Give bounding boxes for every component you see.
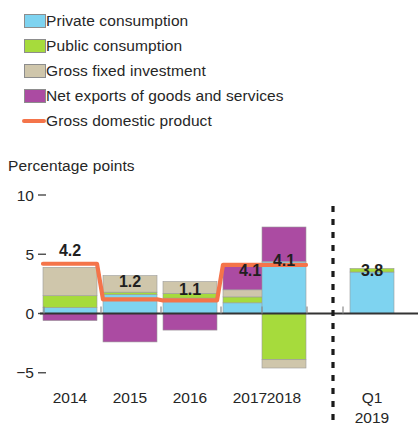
bar-segment: [43, 296, 97, 308]
bar-segment: [43, 314, 97, 321]
x-axis-label: 2017: [233, 389, 267, 406]
bar-value-label: 1.2: [119, 273, 141, 290]
y-tick-label: 5: [25, 246, 34, 263]
x-axis-label: 2018: [267, 389, 301, 406]
y-axis-ticks: 1050−5: [16, 187, 46, 382]
bar-value-label: 3.8: [361, 262, 383, 279]
x-axis-label: Q1: [362, 389, 383, 406]
bar-segment: [103, 292, 157, 294]
stacked-bar-chart: 1050−5 4.21.21.14.14.13.8 20142015201620…: [0, 0, 420, 430]
bar-segment: [103, 314, 157, 342]
y-tick-label: 10: [17, 187, 35, 204]
bar-segment: [43, 267, 97, 295]
y-tick-label: 0: [25, 305, 34, 322]
x-axis-label: 2014: [53, 389, 88, 406]
x-axis-label-second-line: 2019: [355, 409, 389, 426]
x-axis-label: 2016: [173, 389, 207, 406]
x-axis-labels: 20142015201620172018Q12019: [53, 389, 389, 426]
x-axis-label: 2015: [113, 389, 147, 406]
bar-value-label: 4.1: [273, 252, 295, 269]
y-tick-label: −5: [16, 364, 34, 381]
bar-value-label: 4.1: [239, 262, 261, 279]
bar-segment: [262, 314, 306, 360]
bar-segment: [163, 314, 217, 331]
bar-segment: [262, 360, 306, 368]
bar-value-label: 4.2: [59, 242, 81, 259]
bar-value-label: 1.1: [179, 281, 201, 298]
bar-segment: [262, 261, 306, 313]
